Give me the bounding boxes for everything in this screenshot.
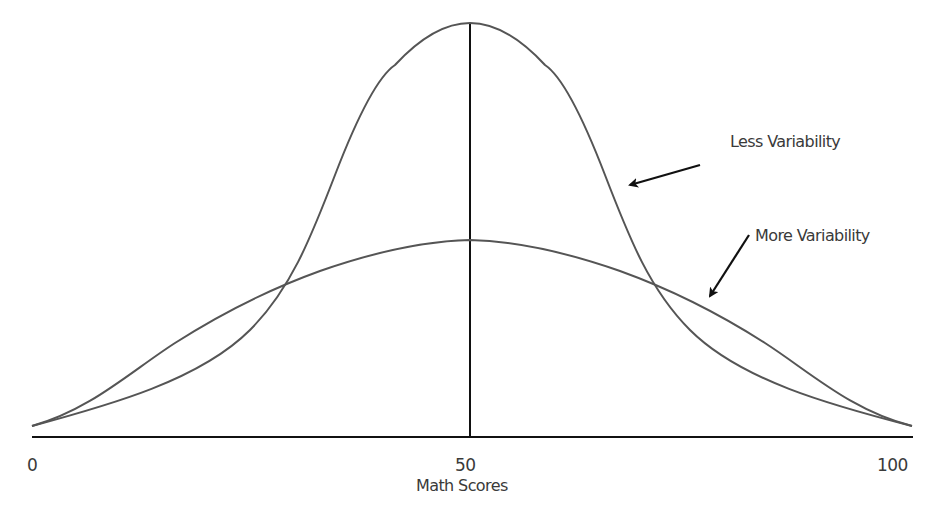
less-variability-label: Less Variability [730,134,840,150]
normal-distribution-chart: Less Variability More Variability 0 50 1… [0,0,940,516]
less-variability-arrow [630,165,700,185]
x-tick-100: 100 [877,457,908,474]
x-tick-0: 0 [27,457,37,474]
more-variability-label: More Variability [755,228,870,244]
more-variability-arrow [710,235,749,296]
chart-canvas [0,0,940,516]
less-variability-curve [32,23,912,426]
x-axis-title: Math Scores [416,478,508,494]
x-tick-50: 50 [455,457,475,474]
more-variability-curve [32,240,912,426]
